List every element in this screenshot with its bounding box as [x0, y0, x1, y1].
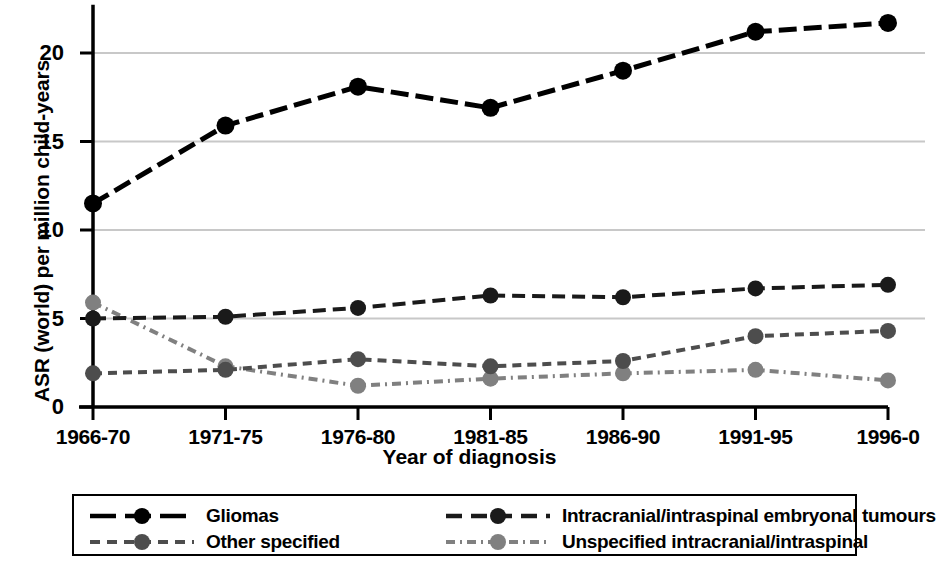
y-tick-label: 20 — [20, 40, 64, 66]
legend-marker-embryonal — [442, 503, 554, 529]
legend-marker-gliomas — [86, 503, 198, 529]
data-point — [748, 280, 764, 296]
chart-svg — [0, 0, 939, 470]
data-point — [482, 99, 500, 117]
y-tick-label: 15 — [20, 129, 64, 155]
data-point — [879, 14, 897, 32]
data-point — [85, 365, 101, 381]
data-point — [748, 362, 764, 378]
data-point — [615, 353, 631, 369]
series-3 — [85, 295, 896, 394]
data-point — [880, 323, 896, 339]
plot-area: 05101520 1966-701971-751976-801981-85198… — [0, 0, 939, 470]
data-point — [85, 295, 101, 311]
legend-label-embryonal: Intracranial/intraspinal embryonal tumou… — [554, 505, 936, 527]
chart-legend: Gliomas Intracranial/intraspinal embryon… — [72, 494, 857, 556]
data-point — [483, 287, 499, 303]
series-0 — [84, 14, 897, 213]
data-point — [350, 300, 366, 316]
data-point — [614, 62, 632, 80]
data-point — [350, 378, 366, 394]
legend-item-other-specified: Other specified — [86, 526, 340, 557]
data-point — [748, 328, 764, 344]
legend-label-unspecified: Unspecified intracranial/intraspinal — [554, 531, 868, 553]
legend-marker-unspecified — [442, 529, 554, 555]
legend-marker-other-specified — [86, 529, 198, 555]
data-point — [880, 372, 896, 388]
data-point — [218, 309, 234, 325]
data-point — [349, 78, 367, 96]
data-point — [615, 289, 631, 305]
legend-item-unspecified: Unspecified intracranial/intraspinal — [442, 526, 868, 557]
data-point — [483, 358, 499, 374]
y-tick-label: 10 — [20, 217, 64, 243]
x-axis-title: Year of diagnosis — [0, 445, 939, 469]
data-point — [350, 351, 366, 367]
data-point — [84, 194, 102, 212]
legend-label-other-specified: Other specified — [198, 531, 340, 553]
data-point — [747, 23, 765, 41]
data-point — [880, 277, 896, 293]
data-point — [85, 311, 101, 327]
y-tick-label: 5 — [20, 306, 64, 332]
data-point — [218, 362, 234, 378]
chart-figure: ASR (world) per million child-years 0510… — [0, 0, 939, 565]
data-point — [217, 117, 235, 135]
legend-label-gliomas: Gliomas — [198, 505, 279, 527]
y-tick-label: 0 — [20, 394, 64, 420]
